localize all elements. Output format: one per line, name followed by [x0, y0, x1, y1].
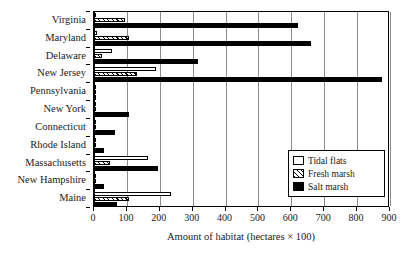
x-axis-tick-label-800: 800	[349, 212, 364, 223]
bar-fresh	[94, 90, 96, 94]
x-axis-tick-label-100: 100	[118, 212, 133, 223]
x-axis-tick-label-900: 900	[382, 212, 397, 223]
y-axis-label-massachusetts: Massachusetts	[25, 154, 86, 172]
y-axis-category-labels: VirginiaMarylandDelawareNew JerseyPennsy…	[0, 11, 90, 207]
x-axis-tick-label-700: 700	[316, 212, 331, 223]
bar-fresh	[94, 18, 125, 22]
x-axis-tick-300	[192, 207, 193, 211]
bar-group	[94, 48, 388, 66]
bar-group	[94, 30, 388, 48]
bar-tidal	[94, 13, 96, 17]
bar-salt	[94, 23, 298, 28]
bar-salt	[94, 95, 96, 100]
y-axis-label-pennsylvania: Pennsylvania	[30, 82, 86, 100]
x-axis-tick-500	[257, 207, 258, 211]
y-axis-tick	[86, 82, 90, 83]
legend-label-fresh: Fresh marsh	[308, 169, 355, 179]
x-axis-title: Amount of habitat (hectares × 100)	[93, 231, 389, 242]
bar-tidal	[94, 67, 156, 71]
y-axis-tick	[86, 171, 90, 172]
legend-swatch-fresh-icon	[293, 169, 304, 178]
y-axis-tick	[86, 47, 90, 48]
y-axis-label-new-jersey: New Jersey	[37, 64, 86, 82]
x-axis-tick-label-0: 0	[91, 212, 96, 223]
y-axis-label-rhode-island: Rhode Island	[30, 136, 86, 154]
bar-tidal	[94, 192, 171, 196]
legend-item-fresh: Fresh marsh	[293, 167, 380, 180]
y-axis-tick	[86, 100, 90, 101]
bar-tidal	[94, 120, 96, 124]
bar-fresh	[94, 143, 96, 147]
y-axis-tick	[86, 118, 90, 119]
x-axis-tick-0	[93, 207, 94, 211]
y-axis-tick	[86, 64, 90, 65]
y-axis-label-new-york: New York	[43, 100, 86, 118]
x-axis-tick-label-500: 500	[250, 212, 265, 223]
bar-fresh	[94, 36, 129, 40]
bar-tidal	[94, 156, 148, 160]
bar-tidal	[94, 49, 112, 53]
legend-item-salt: Salt marsh	[293, 180, 380, 193]
bar-fresh	[94, 54, 102, 58]
bar-fresh	[94, 107, 96, 111]
bar-salt	[94, 77, 382, 82]
bar-salt	[94, 112, 129, 117]
y-axis-label-delaware: Delaware	[46, 47, 86, 65]
x-axis: 0100200300400500600700800900	[93, 207, 389, 229]
x-axis-tick-600	[290, 207, 291, 211]
y-axis-label-maine: Maine	[59, 189, 86, 207]
y-axis-tick	[86, 29, 90, 30]
bar-group	[94, 119, 388, 137]
bar-group	[94, 12, 388, 30]
bar-tidal	[94, 85, 96, 89]
y-axis-label-new-hampshire: New Hampshire	[17, 171, 86, 189]
bar-salt	[94, 41, 311, 46]
bar-fresh	[94, 161, 110, 165]
x-axis-tick-label-400: 400	[217, 212, 232, 223]
legend-label-tidal: Tidal flats	[308, 156, 346, 166]
bar-group	[94, 65, 388, 83]
x-axis-tick-200	[159, 207, 160, 211]
bar-salt	[94, 166, 158, 171]
x-axis-tick-900	[389, 207, 390, 211]
x-axis-tick-label-200: 200	[151, 212, 166, 223]
legend-swatch-tidal-icon	[293, 156, 304, 165]
bar-tidal	[94, 138, 96, 142]
y-axis-label-virginia: Virginia	[52, 11, 86, 29]
bar-tidal	[94, 102, 96, 106]
y-axis-tick	[86, 136, 90, 137]
bar-fresh	[94, 72, 137, 76]
x-axis-tick-400	[225, 207, 226, 211]
bar-tidal	[94, 31, 97, 35]
bar-fresh	[94, 179, 96, 183]
x-axis-tick-700	[323, 207, 324, 211]
legend-swatch-salt-icon	[293, 182, 304, 191]
y-axis-label-connecticut: Connecticut	[35, 118, 86, 136]
gridline-900	[390, 12, 391, 206]
y-axis-tick	[86, 154, 90, 155]
legend-item-tidal: Tidal flats	[293, 154, 380, 167]
bar-salt	[94, 202, 117, 207]
bar-salt	[94, 184, 104, 189]
y-axis-tick	[86, 189, 90, 190]
y-axis-tick	[86, 11, 90, 12]
legend: Tidal flatsFresh marshSalt marsh	[288, 150, 385, 197]
bar-tidal	[94, 174, 96, 178]
bar-group	[94, 101, 388, 119]
legend-label-salt: Salt marsh	[308, 182, 348, 192]
bar-salt	[94, 148, 104, 153]
bar-fresh	[94, 197, 129, 201]
x-axis-tick-label-600: 600	[283, 212, 298, 223]
x-axis-tick-800	[356, 207, 357, 211]
bar-salt	[94, 59, 198, 64]
x-axis-tick-100	[126, 207, 127, 211]
bar-fresh	[94, 125, 96, 129]
habitat-bar-chart-figure: VirginiaMarylandDelawareNew JerseyPennsy…	[0, 0, 410, 255]
bar-group	[94, 83, 388, 101]
bar-salt	[94, 130, 115, 135]
y-axis-label-maryland: Maryland	[45, 29, 86, 47]
y-axis-tick	[86, 207, 90, 208]
x-axis-tick-label-300: 300	[184, 212, 199, 223]
